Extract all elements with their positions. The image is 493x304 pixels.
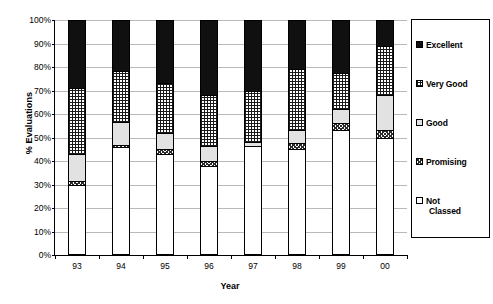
bar-segment: [112, 71, 130, 123]
gridline: [55, 91, 407, 92]
gridline: [55, 208, 407, 209]
y-axis-tick-mark: [52, 91, 55, 92]
x-axis-tick-label: 98: [292, 262, 301, 271]
bar-segment: [112, 122, 130, 145]
x-axis-tick-mark: [363, 255, 364, 259]
bar-segment: [332, 130, 350, 255]
x-axis-tick-label: 99: [336, 262, 345, 271]
y-axis-tick-label: 30%: [34, 180, 51, 189]
x-axis-tick-mark: [275, 255, 276, 259]
bar-segment: [156, 154, 174, 255]
legend-item: Good: [416, 118, 489, 128]
x-axis-tick-mark: [187, 255, 188, 259]
bar-segment: [376, 20, 394, 46]
legend-item: Excellent: [416, 40, 489, 50]
y-axis-tick-mark: [52, 185, 55, 186]
bar-segment: [68, 88, 86, 154]
gridline: [55, 67, 407, 68]
y-axis-tick-mark: [52, 20, 55, 21]
y-axis-tick-label: 20%: [34, 204, 51, 213]
y-axis-tick-label: 80%: [34, 63, 51, 72]
x-axis-tick-mark: [231, 255, 232, 259]
y-axis-tick-mark: [52, 44, 55, 45]
bar-segment: [376, 95, 394, 130]
x-axis-tick-mark: [143, 255, 144, 259]
bar-group: [200, 20, 218, 255]
legend-label: Good: [426, 118, 448, 128]
bar-segment: [112, 20, 130, 71]
x-axis-tick-label: 95: [160, 262, 169, 271]
chart-legend: ExcellentVery GoodGoodPromisingNotClasse…: [411, 19, 490, 238]
bar-segment: [288, 130, 306, 143]
gridline: [55, 161, 407, 162]
bar-segment: [288, 20, 306, 69]
bar-segment: [68, 154, 86, 181]
bar-segment: [244, 20, 262, 91]
x-axis-tick-label: 96: [204, 262, 213, 271]
legend-swatch-icon: [416, 158, 423, 165]
bar-group: [112, 20, 130, 255]
legend-item: Promising: [416, 157, 489, 167]
y-axis-tick-mark: [52, 208, 55, 209]
y-axis-tick-label: 50%: [34, 133, 51, 142]
bar-segment: [200, 166, 218, 255]
legend-label: Very Good: [426, 79, 468, 89]
bar-segment: [156, 133, 174, 149]
y-axis-tick-label: 60%: [34, 110, 51, 119]
y-axis-title: % Evaluations: [24, 68, 34, 178]
legend-label: Promising: [426, 157, 467, 167]
bar-segment: [68, 185, 86, 256]
gridline: [55, 232, 407, 233]
bar-segment: [244, 146, 262, 255]
bar-segment: [156, 83, 174, 132]
bar-segment: [376, 130, 394, 137]
bar-segment: [332, 20, 350, 73]
gridline: [55, 20, 407, 21]
bar-segment: [244, 91, 262, 143]
x-axis-tick-label: 93: [72, 262, 81, 271]
x-axis-tick-label: 97: [248, 262, 257, 271]
bar-segment: [376, 138, 394, 256]
legend-item: NotClassed: [416, 196, 489, 216]
x-axis-tick-label: 00: [380, 262, 389, 271]
bar-segment: [288, 149, 306, 255]
bar-segment: [68, 181, 86, 185]
bar-segment: [200, 95, 218, 146]
bar-segment: [332, 123, 350, 130]
legend-swatch-icon: [416, 41, 423, 48]
legend-label: Excellent: [426, 40, 462, 50]
bar-segment: [200, 20, 218, 95]
x-axis-title: Year: [54, 281, 406, 291]
legend-item: Very Good: [416, 79, 489, 89]
bar-segment: [156, 20, 174, 83]
y-axis-tick-mark: [52, 161, 55, 162]
bar-group: [68, 20, 86, 255]
gridline: [55, 114, 407, 115]
bar-group: [288, 20, 306, 255]
x-axis-tick-mark: [99, 255, 100, 259]
bar-segment: [112, 145, 130, 147]
x-axis-tick-mark: [407, 255, 408, 259]
x-axis-tick-label: 94: [116, 262, 125, 271]
bar-segment: [68, 20, 86, 88]
bar-group: [332, 20, 350, 255]
y-axis-tick-label: 40%: [34, 157, 51, 166]
bar-segment: [244, 142, 262, 146]
y-axis-tick-mark: [52, 232, 55, 233]
gridline: [55, 138, 407, 139]
legend-swatch-icon: [416, 197, 423, 204]
x-axis-tick-mark: [55, 255, 56, 259]
bar-segment: [200, 161, 218, 166]
bar-segment: [112, 147, 130, 255]
bar-segment: [376, 46, 394, 95]
y-axis-tick-label: 0%: [39, 251, 51, 260]
y-axis-tick-label: 100%: [29, 16, 51, 25]
bar-segment: [200, 146, 218, 161]
gridline: [55, 185, 407, 186]
x-axis-tick-mark: [319, 255, 320, 259]
y-axis-tick-label: 10%: [34, 227, 51, 236]
y-axis-tick-label: 70%: [34, 86, 51, 95]
plot-area: 0%10%20%30%40%50%60%70%80%90%100%9394959…: [54, 20, 407, 256]
gridline: [55, 44, 407, 45]
bar-segment: [156, 149, 174, 154]
